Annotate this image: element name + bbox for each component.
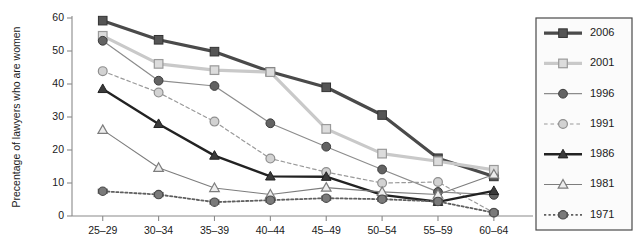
- x-tick-label: 30–34: [144, 224, 173, 236]
- marker-square-open: [378, 149, 387, 158]
- marker-circle-dot: [209, 198, 219, 206]
- marker-circle-dot: [433, 197, 443, 205]
- marker-square-filled: [210, 47, 219, 56]
- legend-label-1996: 1996: [590, 87, 614, 99]
- marker-square-filled: [322, 83, 331, 92]
- marker-circle-open: [434, 178, 443, 187]
- legend-label-2001: 2001: [590, 56, 614, 68]
- y-tick-label: 0: [58, 209, 64, 221]
- marker-square-filled: [559, 29, 568, 38]
- series-path-2001: [103, 36, 494, 170]
- marker-circle-filled: [378, 165, 387, 174]
- marker-square-open: [559, 59, 568, 68]
- legend-label-2006: 2006: [590, 26, 614, 38]
- marker-circle-open: [154, 88, 163, 97]
- marker-dot-core: [559, 211, 567, 219]
- x-tick-label: 25–29: [88, 224, 117, 236]
- marker-circle-dot: [98, 187, 108, 195]
- x-tick-label: 50–54: [368, 224, 397, 236]
- marker-square-open: [434, 157, 443, 166]
- marker-circle-filled: [98, 36, 107, 45]
- legend-label-1981: 1981: [590, 177, 614, 189]
- x-tick-label: 40–44: [256, 224, 285, 236]
- y-tick-label: 40: [52, 77, 64, 89]
- x-tick-label: 45–49: [312, 224, 341, 236]
- legend-label-1991: 1991: [590, 117, 614, 129]
- marker-circle-dot: [489, 209, 499, 217]
- x-tick-label: 35–39: [200, 224, 229, 236]
- line-chart: 010203040506025–2930–3435–3940–4445–4950…: [0, 0, 638, 249]
- marker-dot-core: [210, 198, 218, 206]
- y-tick-label: 60: [52, 11, 64, 23]
- marker-circle-dot: [265, 196, 275, 204]
- marker-circle-open: [559, 120, 568, 129]
- marker-triangle-open: [321, 183, 331, 192]
- marker-circle-filled: [266, 119, 275, 128]
- legend-label-1986: 1986: [590, 147, 614, 159]
- marker-circle-open: [98, 67, 107, 76]
- marker-square-filled: [154, 35, 163, 44]
- marker-square-open: [322, 125, 331, 134]
- marker-dot-core: [434, 197, 442, 205]
- y-tick-label: 10: [52, 176, 64, 188]
- marker-triangle-open: [154, 163, 164, 172]
- marker-circle-filled: [322, 142, 331, 151]
- y-axis-title: Precentage of lawyers who are women: [10, 26, 22, 207]
- series-2001: [98, 32, 498, 175]
- marker-dot-core: [154, 190, 162, 198]
- marker-circle-open: [210, 117, 219, 126]
- y-tick-label: 30: [52, 110, 64, 122]
- marker-dot-core: [322, 194, 330, 202]
- legend-label-1971: 1971: [590, 208, 614, 220]
- marker-circle-dot: [558, 211, 568, 219]
- marker-circle-filled: [559, 89, 568, 98]
- y-tick-label: 20: [52, 143, 64, 155]
- marker-triangle-filled: [489, 186, 499, 195]
- y-tick-label: 50: [52, 44, 64, 56]
- marker-square-open: [210, 66, 219, 75]
- x-tick-label: 60–64: [479, 224, 508, 236]
- marker-dot-core: [490, 209, 498, 217]
- x-tick-label: 55–59: [423, 224, 452, 236]
- marker-dot-core: [99, 187, 107, 195]
- marker-square-open: [154, 60, 163, 69]
- marker-circle-open: [266, 154, 275, 163]
- marker-circle-dot: [154, 190, 164, 198]
- marker-triangle-filled: [98, 84, 108, 93]
- marker-circle-dot: [377, 195, 387, 203]
- marker-circle-filled: [154, 76, 163, 85]
- marker-dot-core: [378, 195, 386, 203]
- marker-square-open: [266, 68, 275, 77]
- marker-triangle-open: [98, 125, 108, 134]
- marker-square-filled: [98, 16, 107, 25]
- marker-circle-filled: [210, 82, 219, 91]
- marker-dot-core: [266, 196, 274, 204]
- chart-figure: 010203040506025–2930–3435–3940–4445–4950…: [0, 0, 638, 249]
- marker-square-filled: [378, 111, 387, 120]
- marker-circle-dot: [321, 194, 331, 202]
- legend-box: [536, 18, 632, 230]
